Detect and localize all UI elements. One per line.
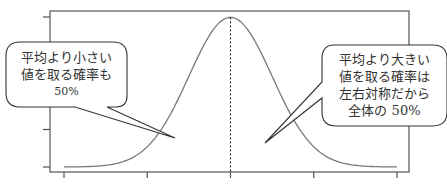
left-callout-text: 平均より小さい 値を取る確率も 50% (6, 49, 127, 100)
right-callout-line-1: 平均より大きい (322, 51, 447, 68)
right-callout-line-3: 左右対称だから (322, 85, 447, 102)
right-callout-line-4: 全体の 50% (322, 102, 447, 119)
left-callout-line-3: 50% (6, 83, 127, 100)
right-callout-text: 平均より大きい 値を取る確率は 左右対称だから 全体の 50% (322, 51, 447, 119)
left-callout-line-2: 値を取る確率も (6, 66, 127, 83)
normal-distribution-figure: 平均より小さい 値を取る確率も 50% 平均より大きい 値を取る確率は 左右対称… (0, 0, 447, 186)
right-callout-line-2: 値を取る確率は (322, 68, 447, 85)
left-callout-line-1: 平均より小さい (6, 49, 127, 66)
x-axis-ticks (64, 172, 397, 178)
